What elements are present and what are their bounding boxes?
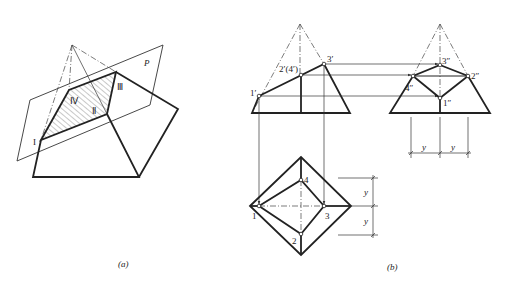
- point-label-1: 1: [252, 211, 257, 221]
- dim-label-y-right: y: [450, 142, 455, 152]
- point-label-1dprime: 1″: [443, 98, 452, 108]
- descriptive-geometry-figure: I Ⅱ Ⅲ Ⅳ P (a) 1′ 2′(4′) 3′: [0, 0, 508, 286]
- caption-b: (b): [387, 262, 398, 272]
- vertex-label-iii: Ⅲ: [117, 82, 123, 92]
- vertex-label-ii: Ⅱ: [92, 106, 96, 116]
- point-label-2: 2: [292, 236, 297, 246]
- point-label-2dprime: 2″: [471, 71, 480, 81]
- point-label-1prime: 1′: [250, 88, 257, 98]
- dim-label-y-bottom: y: [363, 216, 368, 226]
- dim-label-y-left: y: [421, 142, 426, 152]
- vertex-label-i: I: [33, 137, 36, 147]
- dim-label-y-top: y: [363, 187, 368, 197]
- point-label-3: 3: [325, 211, 330, 221]
- point-label-2prime-4prime: 2′(4′): [279, 64, 298, 74]
- figure-a-pictorial: I Ⅱ Ⅲ Ⅳ P (a): [17, 45, 178, 269]
- plane-label-p: P: [143, 58, 150, 68]
- point-label-3prime: 3′: [327, 54, 334, 64]
- point-label-4dprime: 4″: [405, 83, 414, 93]
- section-polygon: [41, 72, 116, 140]
- point-label-3dprime: 3″: [442, 56, 451, 66]
- side-view: 3″ 2″ 4″ 1″ y y: [390, 24, 490, 158]
- front-view: 1′ 2′(4′) 3′: [250, 24, 438, 204]
- caption-a: (a): [118, 259, 129, 269]
- vertex-label-iv: Ⅳ: [70, 96, 79, 106]
- top-view: 1 4 3 2 y y: [250, 157, 378, 255]
- point-label-4: 4: [304, 175, 309, 185]
